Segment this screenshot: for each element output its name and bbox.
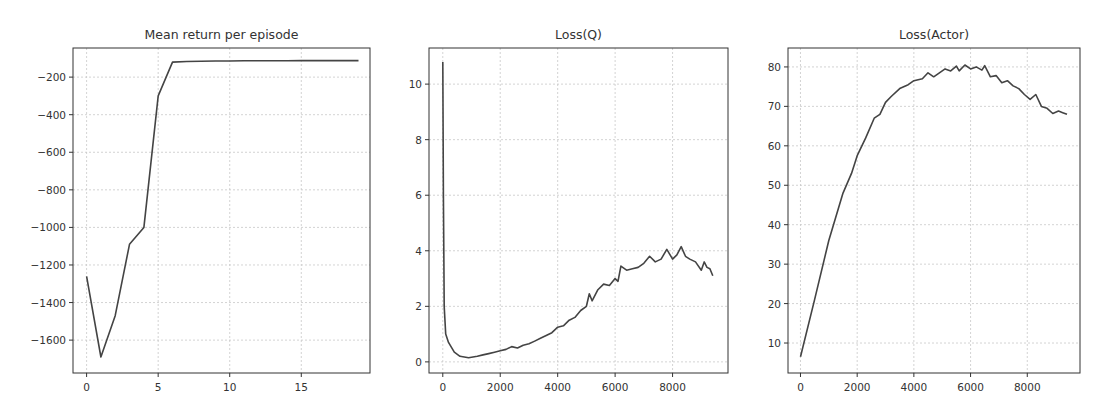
y-tick-label: 80 [768,61,781,73]
chart-title: Loss(Actor) [899,27,969,42]
y-tick-label: 6 [415,189,422,201]
x-tick-label: 4000 [544,381,571,393]
y-tick-label: 30 [768,258,781,270]
y-tick-label: −800 [37,184,66,196]
x-tick-label: 2000 [487,381,514,393]
chart-loss-q: 020004000600080000246810Loss(Q) [409,27,728,393]
x-tick-label: 5 [155,381,162,393]
series-line-mean_return [87,61,359,357]
axes-frame [73,48,370,373]
x-tick-label: 6000 [602,381,629,393]
y-tick-label: 4 [415,245,422,257]
x-tick-label: 2000 [844,381,871,393]
y-tick-label: −400 [37,109,66,121]
y-tick-label: −1600 [30,334,66,346]
y-tick-label: 8 [415,134,422,146]
chart-loss-actor: 020004000600080001020304050607080Loss(Ac… [768,27,1080,393]
y-tick-label: 50 [768,179,781,191]
chart-title: Loss(Q) [555,27,602,42]
chart-mean-return: 051015−200−400−600−800−1000−1200−1400−16… [0,0,1104,415]
y-tick-label: −1400 [30,297,66,309]
y-tick-label: 70 [768,100,781,112]
axes-frame [429,48,728,373]
y-tick-label: 2 [415,300,422,312]
y-tick-label: −1200 [30,259,66,271]
x-tick-label: 8000 [659,381,686,393]
y-tick-label: 10 [768,337,781,349]
x-tick-label: 0 [83,381,90,393]
y-tick-label: −1000 [30,221,66,233]
y-tick-label: 10 [409,78,422,90]
y-tick-label: −600 [37,146,66,158]
x-tick-label: 10 [223,381,236,393]
x-tick-label: 0 [797,381,804,393]
y-tick-label: −200 [37,71,66,83]
chart-canvas: 051015−200−400−600−800−1000−1200−1400−16… [0,0,1104,415]
x-tick-label: 0 [439,381,446,393]
y-tick-label: 20 [768,298,781,310]
y-tick-label: 60 [768,140,781,152]
x-tick-label: 8000 [1014,381,1041,393]
x-tick-label: 15 [295,381,308,393]
x-tick-label: 4000 [901,381,928,393]
chart-title: Mean return per episode [145,27,299,42]
chart-mean-return: 051015−200−400−600−800−1000−1200−1400−16… [30,27,370,393]
y-tick-label: 0 [415,356,422,368]
x-tick-label: 6000 [957,381,984,393]
y-tick-label: 40 [768,219,781,231]
